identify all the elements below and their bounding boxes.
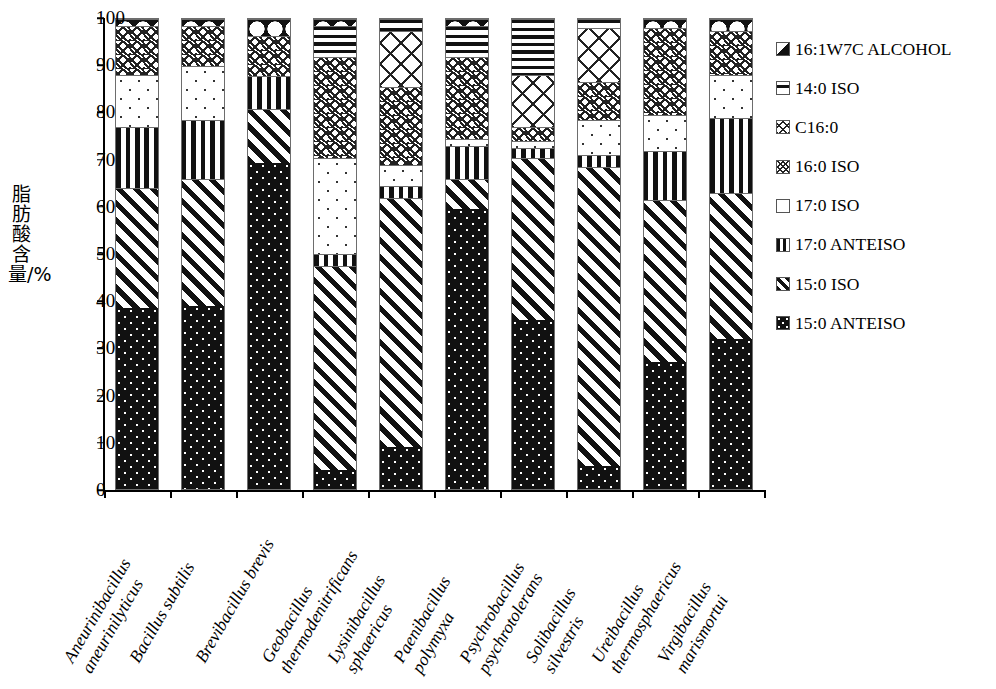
x-axis-tick-mark bbox=[170, 490, 172, 498]
bar-segment bbox=[578, 19, 620, 28]
legend-item[interactable]: 17:0 ANTEISO bbox=[776, 234, 991, 256]
bar-segment bbox=[644, 115, 686, 150]
bar-segment bbox=[380, 198, 422, 447]
bar-segment bbox=[446, 57, 488, 139]
plot-area bbox=[104, 18, 764, 490]
bar-segment bbox=[248, 163, 290, 489]
bar-stack bbox=[247, 18, 291, 490]
bar-segment bbox=[314, 57, 356, 158]
bar-segment bbox=[644, 151, 686, 200]
pattern-swatch-icon bbox=[776, 277, 790, 291]
legend-item[interactable]: 15:0 ANTEISO bbox=[776, 312, 991, 334]
bar-segment bbox=[182, 179, 224, 306]
bar-segment bbox=[578, 82, 620, 120]
bar-segment bbox=[116, 308, 158, 489]
bar-segment bbox=[248, 36, 290, 76]
pattern-swatch-icon bbox=[776, 120, 790, 134]
x-axis-tick-mark bbox=[764, 490, 766, 498]
bar-segment bbox=[710, 75, 752, 117]
bar-segment bbox=[578, 167, 620, 465]
y-axis-tick-mark bbox=[97, 300, 104, 302]
bar-segment bbox=[512, 75, 554, 127]
legend-item[interactable]: 14:0 ISO bbox=[776, 77, 991, 99]
y-axis-tick-mark bbox=[97, 348, 104, 350]
y-axis-tick-mark bbox=[97, 206, 104, 208]
bar-segment bbox=[644, 28, 686, 115]
bar-segment bbox=[644, 200, 686, 362]
bar-segment bbox=[314, 26, 356, 57]
y-axis-tick-mark bbox=[97, 112, 104, 114]
x-axis-tick-mark bbox=[566, 490, 568, 498]
bar-segment bbox=[710, 19, 752, 31]
bar-segment bbox=[446, 146, 488, 179]
legend-item-label: 16:1W7C ALCOHOL bbox=[795, 39, 952, 60]
bar-segment bbox=[182, 19, 224, 26]
bar-stack bbox=[709, 18, 753, 490]
bar-stack bbox=[511, 18, 555, 490]
pattern-swatch-icon bbox=[776, 199, 790, 213]
y-axis-tick-mark bbox=[97, 159, 104, 161]
legend-item-label: 17:0 ANTEISO bbox=[795, 234, 906, 255]
legend-item[interactable]: 17:0 ISO bbox=[776, 195, 991, 217]
legend-item[interactable]: C16:0 bbox=[776, 116, 991, 138]
bar-stack bbox=[313, 18, 357, 490]
bar-segment bbox=[578, 120, 620, 155]
bar-segment bbox=[710, 339, 752, 489]
bar-segment bbox=[446, 26, 488, 57]
legend-item[interactable]: 15:0 ISO bbox=[776, 273, 991, 295]
y-axis-tick-mark bbox=[97, 442, 104, 444]
y-axis-tick-mark bbox=[97, 17, 104, 19]
bar-segment bbox=[182, 26, 224, 66]
bar-segment bbox=[182, 306, 224, 489]
legend-item-label: C16:0 bbox=[795, 117, 838, 138]
bar-segment bbox=[578, 466, 620, 490]
x-axis-tick-mark bbox=[302, 490, 304, 498]
bar-segment bbox=[248, 109, 290, 163]
bar-segment bbox=[116, 127, 158, 188]
legend-item-label: 14:0 ISO bbox=[795, 78, 860, 99]
bar-segment bbox=[116, 75, 158, 127]
y-axis-tick-mark bbox=[97, 253, 104, 255]
bar-segment bbox=[248, 19, 290, 36]
bar-stack bbox=[445, 18, 489, 490]
y-axis-tick-mark bbox=[97, 395, 104, 397]
bar-stack bbox=[577, 18, 621, 490]
legend-item-label: 15:0 ISO bbox=[795, 274, 860, 295]
bar-segment bbox=[512, 148, 554, 157]
pattern-swatch-icon bbox=[776, 316, 790, 330]
bar-segment bbox=[644, 19, 686, 28]
pattern-swatch-icon bbox=[776, 238, 790, 252]
x-axis-tick-mark bbox=[698, 490, 700, 498]
pattern-swatch-icon bbox=[776, 81, 790, 95]
x-axis-tick-mark bbox=[236, 490, 238, 498]
legend-item-label: 15:0 ANTEISO bbox=[795, 313, 906, 334]
bar-segment bbox=[578, 155, 620, 167]
x-axis-tick-mark bbox=[368, 490, 370, 498]
bar-stack bbox=[115, 18, 159, 490]
bar-segment bbox=[314, 254, 356, 266]
bar-segment bbox=[446, 179, 488, 210]
bar-segment bbox=[314, 158, 356, 254]
bar-segment bbox=[116, 188, 158, 308]
legend-item[interactable]: 16:0 ISO bbox=[776, 156, 991, 178]
bar-segment bbox=[644, 362, 686, 489]
pattern-swatch-icon bbox=[776, 42, 790, 56]
bar-segment bbox=[512, 141, 554, 148]
bar-segment bbox=[182, 120, 224, 179]
bar-segment bbox=[380, 186, 422, 198]
bar-segment bbox=[512, 158, 554, 320]
bar-segment bbox=[446, 139, 488, 146]
bar-segment bbox=[446, 209, 488, 489]
y-axis-tick-mark bbox=[97, 64, 104, 66]
x-axis-tick-mark bbox=[632, 490, 634, 498]
legend-item-label: 16:0 ISO bbox=[795, 156, 860, 177]
x-axis-tick-mark bbox=[434, 490, 436, 498]
bar-segment bbox=[512, 127, 554, 141]
bar-segment bbox=[380, 165, 422, 186]
bar-stack bbox=[379, 18, 423, 490]
bar-segment bbox=[248, 76, 290, 109]
bar-segment bbox=[710, 118, 752, 193]
bar-segment bbox=[380, 31, 422, 87]
legend-item[interactable]: 16:1W7C ALCOHOL bbox=[776, 38, 991, 60]
bar-segment bbox=[116, 26, 158, 75]
